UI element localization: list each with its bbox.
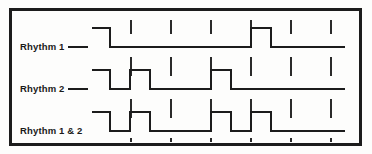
waveform-rhythm-2 (92, 70, 345, 89)
track-rhythm-1-and-2: Rhythm 1 & 2 (20, 112, 345, 136)
rhythm-diagram-figure: Rhythm 1Rhythm 2Rhythm 1 & 2 (0, 0, 372, 154)
waveform-rhythm-1-and-2 (92, 112, 345, 131)
track-label-rhythm-1-and-2: Rhythm 1 & 2 (20, 125, 83, 136)
waveform-canvas: Rhythm 1Rhythm 2Rhythm 1 & 2 (0, 0, 372, 154)
track-label-rhythm-2: Rhythm 2 (20, 83, 64, 94)
track-rhythm-2: Rhythm 2 (20, 70, 345, 94)
track-rhythm-1: Rhythm 1 (20, 28, 345, 52)
waveform-rhythm-1 (92, 28, 345, 47)
track-label-rhythm-1: Rhythm 1 (20, 41, 65, 52)
